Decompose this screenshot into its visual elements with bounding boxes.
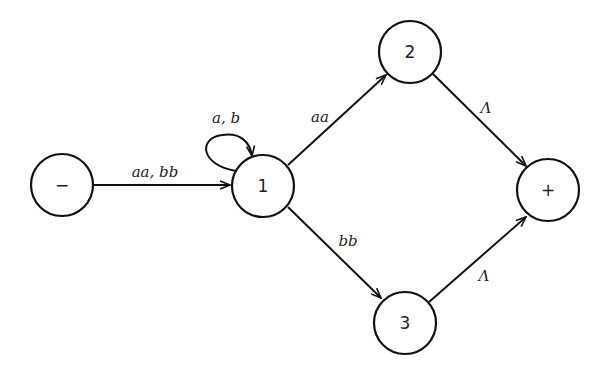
edge-label-1-to-2: aa (311, 108, 329, 126)
node-label-2: 2 (405, 42, 416, 62)
node-1: 1 (232, 155, 294, 217)
edge-label-3-to-final: Λ (477, 267, 490, 285)
edge-label-2-to-final: Λ (479, 99, 492, 117)
node-3: 3 (374, 292, 436, 354)
node-label-3: 3 (400, 313, 411, 333)
node-final: + (517, 159, 579, 221)
edge-3-to-final: Λ (429, 217, 526, 302)
edge-2-to-final: Λ (433, 74, 526, 166)
node-label-1: 1 (258, 176, 269, 196)
edge-label-self-loop: a, b (212, 109, 240, 127)
transition-graph: aa, bb a, b aa bb Λ Λ − 1 2 3 + (0, 0, 608, 372)
edge-label-start-to-1: aa, bb (132, 163, 179, 181)
edge-label-1-to-3: bb (338, 232, 357, 250)
node-2: 2 (379, 21, 441, 83)
node-label-final: + (541, 180, 555, 200)
edge-1-to-2: aa (288, 75, 386, 165)
node-label-start: − (55, 175, 69, 195)
node-start: − (31, 154, 93, 216)
edge-1-to-3: bb (288, 207, 381, 298)
edge-start-to-1: aa, bb (93, 163, 230, 185)
